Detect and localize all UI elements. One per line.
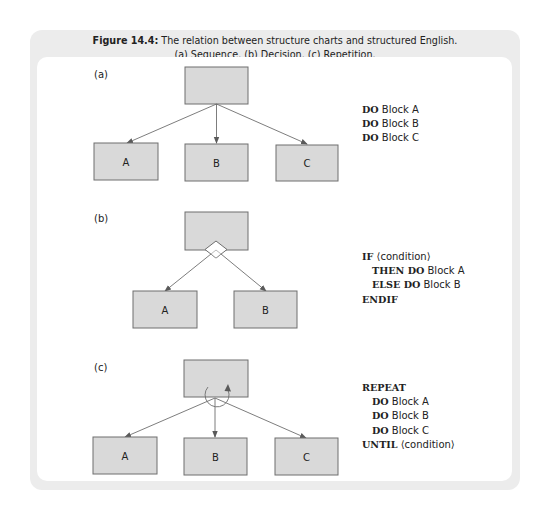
block-c-label: C <box>303 452 310 463</box>
arrow-to-a <box>127 104 217 143</box>
block-c-label: C <box>304 158 311 169</box>
panel-b-label: (b) <box>94 213 108 224</box>
code-line: IF ⟨condition⟩ <box>362 250 465 264</box>
keyword: DO <box>372 396 389 407</box>
block-b-label: B <box>262 305 269 316</box>
block-b-label: B <box>213 158 220 169</box>
structure-charts: (a) A B C (b) A B (c) A B <box>0 0 548 508</box>
keyword: ELSE DO <box>372 279 420 290</box>
arrow-to-c <box>217 104 308 144</box>
code-line: DO Block C <box>362 424 455 438</box>
code-text: Block C <box>389 425 429 436</box>
code-text: Block B <box>389 410 429 421</box>
panel-c-repetition: (c) A B C <box>93 360 338 475</box>
block-a-label: A <box>122 451 129 462</box>
panel-c-label: (c) <box>94 362 107 373</box>
code-text: ⟨condition⟩ <box>373 251 430 262</box>
arrow-to-c <box>215 398 306 438</box>
keyword: IF <box>362 251 373 262</box>
keyword: THEN DO <box>372 265 424 276</box>
parent-box <box>184 360 248 397</box>
keyword: ENDIF <box>362 294 398 305</box>
code-repetition: REPEAT DO Block A DO Block B DO Block C … <box>362 381 455 452</box>
code-line: DO Block B <box>362 409 455 423</box>
code-line: UNTIL ⟨condition⟩ <box>362 438 455 452</box>
code-text: Block A <box>424 265 464 276</box>
keyword: DO <box>362 104 379 115</box>
code-text: Block B <box>420 279 460 290</box>
panel-b-decision: (b) A B <box>94 212 297 328</box>
block-a-label: A <box>162 305 169 316</box>
keyword: DO <box>362 118 379 129</box>
keyword: DO <box>372 425 389 436</box>
keyword: DO <box>372 410 389 421</box>
code-line: ENDIF <box>362 293 465 307</box>
code-line: ELSE DO Block B <box>362 278 465 292</box>
block-b-label: B <box>212 452 219 463</box>
code-text: Block B <box>379 118 419 129</box>
keyword: REPEAT <box>362 382 406 393</box>
code-text: ⟨condition⟩ <box>398 439 455 450</box>
arrow-to-a <box>165 254 211 291</box>
code-line: THEN DO Block A <box>362 264 465 278</box>
panel-a-label: (a) <box>94 69 108 80</box>
keyword: DO <box>362 132 379 143</box>
parent-box <box>185 67 248 104</box>
code-line: DO Block B <box>362 117 419 131</box>
arrow-to-a <box>125 398 215 437</box>
code-text: Block C <box>379 132 419 143</box>
code-decision: IF ⟨condition⟩ THEN DO Block A ELSE DO B… <box>362 250 465 307</box>
code-sequence: DO Block A DO Block B DO Block C <box>362 103 419 146</box>
code-line: DO Block C <box>362 131 419 145</box>
code-text: Block A <box>379 104 419 115</box>
keyword: UNTIL <box>362 439 398 450</box>
block-a-label: A <box>123 157 130 168</box>
code-line: DO Block A <box>362 395 455 409</box>
panel-a-sequence: (a) A B C <box>94 67 338 181</box>
arrow-to-b <box>221 254 266 291</box>
code-line: REPEAT <box>362 381 455 395</box>
code-line: DO Block A <box>362 103 419 117</box>
code-text: Block A <box>389 396 429 407</box>
